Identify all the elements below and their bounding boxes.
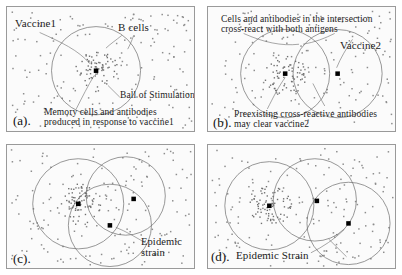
b-cell-dot — [17, 195, 18, 196]
b-cell-dot — [362, 167, 363, 168]
b-cell-dot — [41, 244, 42, 245]
memory-cell-dot — [107, 61, 108, 62]
memory-cell-dot — [272, 195, 273, 196]
b-cell-dot — [141, 67, 142, 68]
memory-cell-dot — [279, 71, 280, 72]
b-cell-dot — [118, 208, 119, 209]
panel-tag-a: (a). — [13, 113, 31, 129]
b-cell-dot — [57, 260, 58, 261]
b-cell-dot — [159, 232, 160, 233]
b-cell-dot — [110, 199, 111, 200]
memory-cell-dot — [298, 67, 299, 68]
b-cell-dot — [358, 255, 359, 256]
memory-cell-dot — [85, 54, 86, 55]
b-cell-dot — [32, 189, 33, 190]
memory-cell-dot — [102, 80, 103, 81]
b-cell-dot — [128, 252, 129, 253]
b-cell-dot — [170, 230, 171, 231]
panel-c-markers — [76, 196, 136, 227]
memory-cell-dot — [75, 66, 76, 67]
b-cell-dot — [299, 202, 300, 203]
b-cell-dot — [295, 93, 296, 94]
memory-cell-dot — [107, 54, 108, 55]
b-cell-dot — [229, 222, 230, 223]
memory-cell-dot — [98, 62, 99, 63]
memory-cell-dot — [104, 82, 105, 83]
b-cell-dot — [270, 170, 271, 171]
b-cell-dot — [338, 102, 339, 103]
memory-cell-dot — [90, 69, 91, 70]
b-cell-dot — [88, 97, 89, 98]
memory-cell-dot — [77, 183, 78, 184]
b-cell-dot — [260, 208, 261, 209]
b-cell-dot — [211, 103, 212, 104]
memory-cell-dot — [283, 77, 284, 78]
b-cell-dot — [224, 65, 225, 66]
memory-cell-dot — [252, 214, 253, 215]
b-cell-dot — [145, 209, 146, 210]
memory-cell-dot — [73, 205, 74, 206]
memory-cell-dot — [275, 222, 276, 223]
memory-cell-dot — [93, 198, 94, 199]
b-cell-dot — [106, 195, 107, 196]
b-cell-dot — [291, 56, 292, 57]
label-b-cells: B cells — [118, 22, 149, 34]
b-cell-dot — [314, 97, 315, 98]
memory-cell-dot — [101, 70, 102, 71]
memory-cell-dot — [266, 67, 267, 68]
b-cell-dot — [89, 255, 90, 256]
memory-cell-dot — [283, 198, 284, 199]
memory-cell-dot — [85, 213, 86, 214]
memory-cell-dot — [84, 80, 85, 81]
memory-cell-dot — [254, 195, 255, 196]
memory-cell-dot — [116, 64, 117, 65]
memory-cell-dot — [94, 215, 95, 216]
label-ball-of-stimulation: Ball of Stimulation — [120, 91, 195, 101]
memory-cell-dot — [90, 73, 91, 74]
b-cell-dot — [335, 247, 336, 248]
b-cell-dot — [309, 246, 310, 247]
memory-cell-dot — [71, 188, 72, 189]
b-cell-dot — [141, 185, 142, 186]
b-cell-dot — [324, 68, 325, 69]
b-cell-dot — [19, 159, 20, 160]
b-cell-dot — [114, 218, 115, 219]
b-cell-dot — [77, 162, 78, 163]
memory-cell-dot — [72, 206, 73, 207]
b-cell-dot — [38, 228, 39, 229]
memory-cell-dot — [273, 65, 274, 66]
b-cell-dot — [302, 201, 303, 202]
b-cell-dot — [179, 68, 180, 69]
memory-cell-dot — [257, 211, 258, 212]
b-cell-dot — [137, 74, 138, 75]
memory-cell-dot — [277, 198, 278, 199]
b-cell-dot — [361, 164, 362, 165]
caption-intersection-line2: cross-react with both antigens — [221, 25, 338, 35]
memory-cell-dot — [274, 202, 275, 203]
b-cell-dot — [42, 227, 43, 228]
b-cell-dot — [271, 244, 272, 245]
b-cell-dot — [31, 237, 32, 238]
b-cell-dot — [153, 78, 154, 79]
memory-cell-dot — [91, 56, 92, 57]
b-cell-dot — [333, 232, 334, 233]
memory-cell-dot — [78, 215, 79, 216]
b-cell-dot — [182, 16, 183, 17]
memory-cell-dot — [259, 199, 260, 200]
b-cell-dot — [345, 198, 346, 199]
b-cell-dot — [141, 161, 142, 162]
b-cell-dot — [77, 35, 78, 36]
b-cell-dot — [324, 70, 325, 71]
b-cell-dot — [386, 101, 387, 102]
b-cell-dot — [379, 239, 380, 240]
b-cell-dot — [248, 167, 249, 168]
memory-cell-dot — [277, 190, 278, 191]
b-cell-dot — [315, 187, 316, 188]
memory-cell-dot — [299, 72, 300, 73]
b-cell-dot — [46, 155, 47, 156]
b-cell-dot — [95, 192, 96, 193]
b-cell-dot — [392, 196, 393, 197]
b-cell-dot — [351, 88, 352, 89]
b-cell-dot — [172, 159, 173, 160]
label-vaccine1: Vaccine1 — [15, 18, 56, 30]
